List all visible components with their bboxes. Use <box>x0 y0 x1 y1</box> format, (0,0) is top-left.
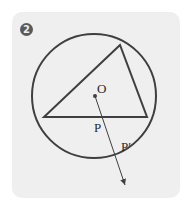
geometry-diagram <box>0 0 190 214</box>
label-p-prime: P′ <box>121 140 131 153</box>
label-o: O <box>97 82 106 95</box>
label-p: P <box>94 121 101 134</box>
triangle <box>44 45 147 117</box>
